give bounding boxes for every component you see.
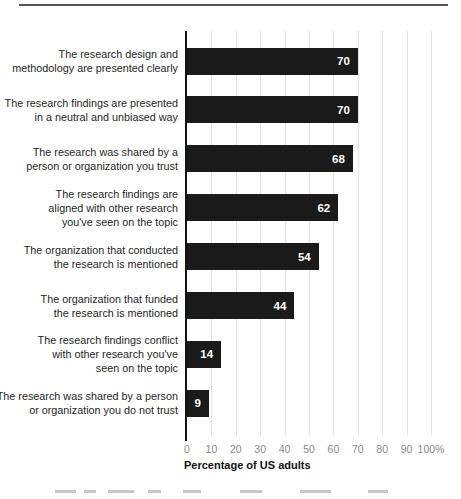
category-label-line: the research is mentioned bbox=[24, 257, 178, 271]
gridline bbox=[358, 31, 359, 436]
gridline bbox=[382, 31, 383, 436]
category-label-line: aligned with other research bbox=[48, 201, 178, 215]
category-label-line: The research findings conflict bbox=[38, 333, 178, 347]
category-label-line: The research findings are bbox=[48, 187, 178, 201]
bar-chart: The research design andmethodology are p… bbox=[0, 0, 461, 499]
value-label: 70 bbox=[337, 55, 350, 67]
x-tick-label: 60 bbox=[328, 443, 340, 455]
gridline bbox=[333, 31, 334, 436]
category-label-line: the research is mentioned bbox=[41, 306, 178, 320]
value-label: 14 bbox=[200, 348, 213, 360]
value-label: 54 bbox=[298, 251, 311, 263]
category-label: The research design andmethodology are p… bbox=[12, 47, 178, 75]
x-tick-label: 80 bbox=[376, 443, 388, 455]
gridline bbox=[260, 31, 261, 436]
category-label-line: methodology are presented clearly bbox=[12, 61, 178, 75]
value-label: 68 bbox=[332, 153, 345, 165]
gridline bbox=[309, 31, 310, 436]
cut-off-caption-fragment bbox=[55, 490, 395, 493]
x-tick-label: 70 bbox=[352, 443, 364, 455]
category-label: The research findings conflictwith other… bbox=[38, 333, 178, 375]
category-label-line: in a neutral and unbiased way bbox=[5, 110, 178, 124]
x-tick-label: 40 bbox=[279, 443, 291, 455]
category-label-line: seen on the topic bbox=[38, 361, 178, 375]
x-tick-label: 50 bbox=[303, 443, 315, 455]
category-label-line: The research design and bbox=[12, 47, 178, 61]
bar: 54 bbox=[187, 243, 319, 270]
value-label: 44 bbox=[274, 300, 287, 312]
category-label: The organization that conductedthe resea… bbox=[24, 243, 178, 271]
category-label-line: The organization that funded bbox=[41, 292, 178, 306]
value-label: 70 bbox=[337, 104, 350, 116]
bar: 9 bbox=[187, 390, 209, 417]
category-label: The research was shared by a personor or… bbox=[0, 389, 178, 417]
category-label-line: with other research you've bbox=[38, 347, 178, 361]
category-label: The research was shared by aperson or or… bbox=[26, 145, 178, 173]
category-label: The research findings arealigned with ot… bbox=[48, 187, 178, 229]
bar: 68 bbox=[187, 145, 353, 172]
gridline bbox=[431, 31, 432, 436]
x-tick-label: 0 bbox=[184, 443, 190, 455]
gridline bbox=[211, 31, 212, 436]
gridline bbox=[407, 31, 408, 436]
category-label-line: or organization you do not trust bbox=[0, 403, 178, 417]
x-axis-label: Percentage of US adults bbox=[184, 459, 311, 471]
x-tick-label: 90 bbox=[401, 443, 413, 455]
category-label-line: The research was shared by a bbox=[26, 145, 178, 159]
bar: 70 bbox=[187, 48, 358, 75]
bar: 14 bbox=[187, 341, 221, 368]
x-tick-label: 100% bbox=[418, 443, 445, 455]
category-label-line: you've seen on the topic bbox=[48, 215, 178, 229]
category-label-line: person or organization you trust bbox=[26, 159, 178, 173]
bar: 70 bbox=[187, 96, 358, 123]
bar: 44 bbox=[187, 292, 294, 319]
x-tick-label: 10 bbox=[206, 443, 218, 455]
category-label: The organization that fundedthe research… bbox=[41, 292, 178, 320]
gridline bbox=[236, 31, 237, 436]
category-label: The research findings are presentedin a … bbox=[5, 96, 178, 124]
category-label-line: The organization that conducted bbox=[24, 243, 178, 257]
bar: 62 bbox=[187, 194, 338, 221]
x-tick-label: 30 bbox=[254, 443, 266, 455]
category-label-line: The research findings are presented bbox=[5, 96, 178, 110]
x-tick-label: 20 bbox=[230, 443, 242, 455]
value-label: 9 bbox=[195, 397, 201, 409]
gridline bbox=[285, 31, 286, 436]
y-axis-line bbox=[185, 31, 187, 441]
category-label-line: The research was shared by a person bbox=[0, 389, 178, 403]
value-label: 62 bbox=[317, 202, 330, 214]
